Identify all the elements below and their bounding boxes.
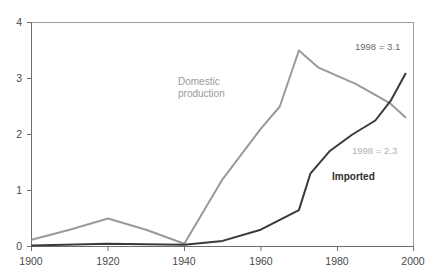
y-tick-label-3: 3 — [4, 72, 22, 84]
y-tick-label-0: 0 — [4, 240, 22, 252]
y-tick-label-4: 4 — [4, 16, 22, 28]
x-tick-label-1940: 1940 — [162, 255, 206, 267]
x-tick-marks — [32, 247, 414, 252]
x-tick-label-1920: 1920 — [86, 255, 130, 267]
y-tick-marks — [27, 23, 32, 247]
annotation-imported-1998: 1998 = 3.1 — [355, 41, 400, 52]
chart-container: 0 1 2 3 4 1900 1920 1940 1960 1980 2000 … — [0, 0, 435, 279]
x-tick-label-1960: 1960 — [239, 255, 283, 267]
annotation-domestic-1998: 1998 = 2.3 — [352, 145, 397, 156]
series-label-imported: Imported — [332, 171, 375, 183]
y-tick-label-1: 1 — [4, 184, 22, 196]
x-tick-label-2000: 2000 — [391, 255, 435, 267]
x-tick-label-1900: 1900 — [9, 255, 53, 267]
y-tick-label-2: 2 — [4, 128, 22, 140]
series-label-domestic-production: Domestic production — [178, 76, 225, 100]
x-tick-label-1980: 1980 — [315, 255, 359, 267]
